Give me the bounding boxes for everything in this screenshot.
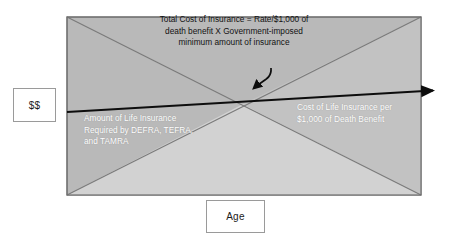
x-axis-label-text: Age (226, 211, 245, 222)
left-region-label: Amount of Life Insurance Required by DEF… (84, 113, 209, 148)
total-cost-annotation: Total Cost of Insurance = Rate/$1,000 of… (150, 14, 318, 49)
y-axis-label-box: $$ (13, 88, 56, 122)
y-axis-label-text: $$ (29, 100, 41, 111)
diagram-canvas: Total Cost of Insurance = Rate/$1,000 of… (0, 0, 455, 245)
right-region-label: Cost of Life Insurance per $1,000 of Dea… (297, 102, 419, 125)
x-axis-label-box: Age (206, 200, 265, 233)
